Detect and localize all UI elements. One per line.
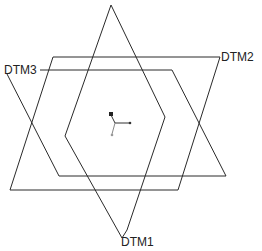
- datum-plane-diagram: DTM3 DTM2 DTM1: [0, 0, 262, 251]
- csys-axis-z-marker: [111, 134, 114, 137]
- label-dtm2: DTM2: [221, 50, 254, 64]
- csys-axis-y-marker: [129, 122, 132, 125]
- csys-axis-x-marker: [109, 112, 113, 116]
- label-dtm1: DTM1: [121, 235, 154, 249]
- datum-plane-dtm1[interactable]: [65, 5, 165, 238]
- coordinate-system-icon[interactable]: [109, 112, 131, 136]
- label-dtm3: DTM3: [4, 63, 37, 77]
